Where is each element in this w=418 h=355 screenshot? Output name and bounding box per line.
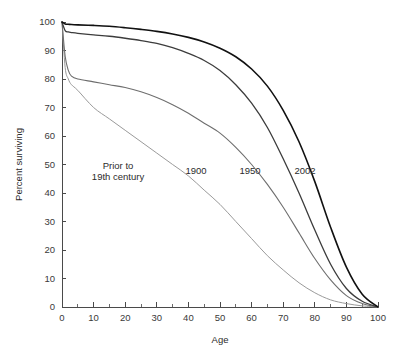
y-tick-label: 80 — [44, 73, 55, 84]
x-tick-label: 30 — [152, 312, 163, 323]
annotation-text: 1950 — [239, 165, 260, 176]
annotation-text: 2002 — [294, 165, 315, 176]
annotation-text: 1900 — [185, 165, 206, 176]
x-tick-label: 0 — [59, 312, 64, 323]
y-tick-label: 50 — [44, 159, 55, 170]
x-axis-title: Age — [212, 334, 229, 345]
y-tick-label: 10 — [44, 273, 55, 284]
annotation-2002: 2002 — [294, 165, 315, 176]
annotation-1950: 1950 — [239, 165, 260, 176]
x-tick-label: 100 — [370, 312, 386, 323]
chart-background — [0, 0, 418, 355]
y-tick-label: 100 — [39, 16, 55, 27]
x-tick-label: 20 — [120, 312, 131, 323]
annotation-1900: 1900 — [185, 165, 206, 176]
annotation-text-line2: 19th century — [92, 171, 145, 182]
y-tick-label: 30 — [44, 216, 55, 227]
survival-curves-chart: 0102030405060708090100 01020304050607080… — [0, 0, 418, 355]
y-tick-label: 0 — [50, 301, 55, 312]
chart-svg: 0102030405060708090100 01020304050607080… — [0, 0, 418, 355]
y-axis-title: Percent surviving — [13, 128, 24, 201]
y-tick-label: 40 — [44, 187, 55, 198]
annotation-text: Prior to — [103, 160, 134, 171]
x-tick-label: 70 — [278, 312, 289, 323]
x-tick-label: 90 — [341, 312, 352, 323]
y-tick-label: 70 — [44, 102, 55, 113]
y-tick-label: 60 — [44, 130, 55, 141]
x-tick-label: 40 — [183, 312, 194, 323]
x-tick-label: 10 — [88, 312, 99, 323]
x-tick-label: 50 — [215, 312, 226, 323]
y-tick-label: 20 — [44, 244, 55, 255]
y-tick-label: 90 — [44, 45, 55, 56]
x-tick-label: 60 — [246, 312, 257, 323]
x-tick-label: 80 — [310, 312, 321, 323]
